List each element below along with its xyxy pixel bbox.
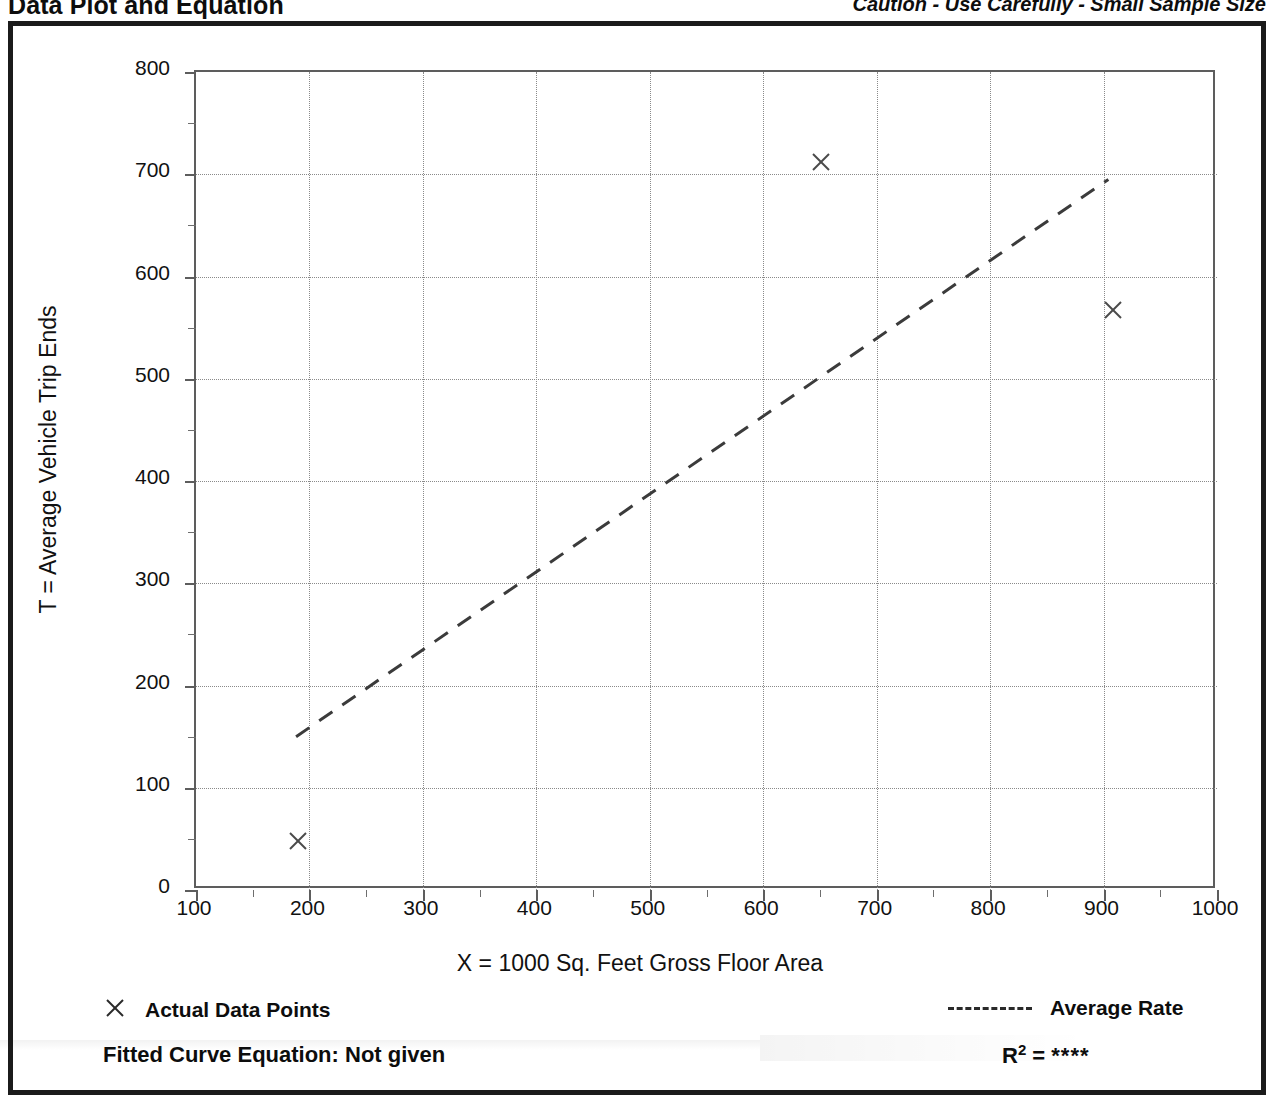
legend-average-rate-label: Average Rate: [1050, 996, 1183, 1020]
r-squared-equals: =: [1026, 1043, 1051, 1068]
x-axis-title: X = 1000 Sq. Feet Gross Floor Area: [0, 950, 1280, 977]
y-axis-tick-label: 200: [90, 670, 170, 694]
y-axis-tick-label: 300: [90, 567, 170, 591]
legend-average-rate: Average Rate: [948, 996, 1183, 1020]
y-axis-tick-label: 0: [90, 874, 170, 898]
x-axis-tick-label: 400: [489, 896, 579, 920]
x-axis-minor-tick: [366, 890, 367, 897]
x-axis-tick-label: 600: [716, 896, 806, 920]
x-axis-minor-tick: [1047, 890, 1048, 897]
x-axis-minor-tick: [933, 890, 934, 897]
x-axis-minor-tick: [480, 890, 481, 897]
y-axis-title: T = Average Vehicle Trip Ends: [35, 180, 62, 740]
r-squared-symbol: R: [1002, 1043, 1018, 1068]
x-axis-tick-label: 100: [149, 896, 239, 920]
dashed-line-icon: [948, 1007, 1032, 1010]
x-axis-tick-label: 900: [1057, 896, 1147, 920]
x-axis-tick-label: 800: [943, 896, 1033, 920]
y-axis-tick-label: 500: [90, 363, 170, 387]
fitted-curve-equation: Fitted Curve Equation: Not given: [103, 1042, 445, 1068]
x-axis-minor-tick: [1160, 890, 1161, 897]
x-marker-icon: [103, 996, 127, 1024]
average-rate-trendline: [194, 70, 1215, 888]
x-axis-tick-label: 1000: [1170, 896, 1260, 920]
y-axis-tick-label: 800: [90, 56, 170, 80]
x-axis-minor-tick: [820, 890, 821, 897]
x-axis-tick-label: 200: [262, 896, 352, 920]
caution-note: Caution - Use Carefully - Small Sample S…: [853, 0, 1266, 16]
legend-actual-data-points-label: Actual Data Points: [145, 998, 331, 1022]
x-axis-tick-label: 500: [603, 896, 693, 920]
legend-actual-data-points: Actual Data Points: [103, 996, 331, 1024]
x-axis-tick-label: 700: [830, 896, 920, 920]
x-axis-tick-label: 300: [376, 896, 466, 920]
r-squared-stars: ****: [1051, 1043, 1089, 1068]
y-axis-tick: [185, 890, 196, 892]
y-axis-tick-label: 400: [90, 465, 170, 489]
y-axis-tick-label: 100: [90, 772, 170, 796]
x-axis-minor-tick: [253, 890, 254, 897]
page-title: Data Plot and Equation: [8, 0, 284, 20]
x-axis-minor-tick: [707, 890, 708, 897]
y-axis-tick-label: 600: [90, 261, 170, 285]
y-axis-tick-label: 700: [90, 158, 170, 182]
r-squared-exponent: 2: [1018, 1041, 1026, 1058]
page-header: Data Plot and Equation Caution - Use Car…: [0, 0, 1280, 22]
r-squared-value: R2 = ****: [1002, 1041, 1090, 1069]
x-axis-minor-tick: [593, 890, 594, 897]
